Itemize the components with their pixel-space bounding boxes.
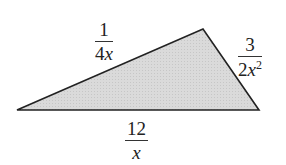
bottom-side-label: 12 x <box>125 119 148 162</box>
left-side-label: 1 4x <box>95 20 113 63</box>
right-side-denominator-exponent: 2 <box>256 58 262 72</box>
shaded-triangle <box>17 29 259 110</box>
left-side-denominator-var: x <box>105 43 113 64</box>
left-side-denominator-coef: 4 <box>95 43 105 64</box>
left-side-denominator: 4x <box>95 42 113 63</box>
bottom-side-numerator: 12 <box>125 119 148 140</box>
right-side-label: 3 2x2 <box>238 35 262 79</box>
right-side-denominator-var: x <box>248 59 256 80</box>
bottom-side-denominator: x <box>132 141 140 162</box>
left-side-numerator: 1 <box>97 20 111 41</box>
triangle-diagram: 1 4x 3 2x2 12 x <box>0 0 286 165</box>
right-side-numerator: 3 <box>243 35 257 56</box>
right-side-denominator-coef: 2 <box>238 59 248 80</box>
bottom-side-denominator-var: x <box>132 142 140 163</box>
right-side-denominator: 2x2 <box>238 57 262 79</box>
